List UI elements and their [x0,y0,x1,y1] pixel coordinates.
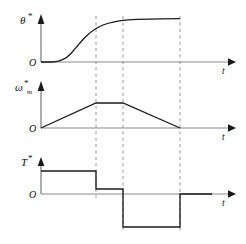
position-y-axis-superscript: * [28,11,33,21]
velocity-x-axis-arrow-icon [228,124,236,132]
torque-y-axis-label: T [21,156,28,168]
panel-velocity [38,81,236,132]
velocity-trace [41,103,180,128]
torque-trace [41,171,212,227]
torque-origin-label: O [29,189,36,200]
velocity-origin-label: O [29,123,36,134]
velocity-y-axis-superscript: * [24,78,29,88]
position-trace [41,19,180,62]
position-origin-label: O [29,57,36,68]
panel-torque [38,157,236,227]
position-x-axis-arrow-icon [228,58,236,66]
velocity-x-axis-label: t [222,132,225,142]
timing-markers-group [96,16,180,232]
velocity-y-axis-subscript: m [27,88,32,96]
torque-y-axis-arrow-icon [38,157,45,166]
torque-x-axis-label: t [222,198,225,208]
figure-canvas: θ * O t ω * m O t T * O t [0,0,246,244]
torque-x-axis-arrow-icon [228,190,236,198]
panel-position [38,14,236,66]
position-y-axis-label: θ [20,14,26,26]
velocity-y-axis-arrow-icon [38,81,45,91]
motion-profile-figure: θ * O t ω * m O t T * O t [0,0,246,244]
velocity-y-axis-label: ω [15,81,23,93]
position-y-axis-arrow-icon [38,14,45,24]
torque-y-axis-superscript: * [28,153,33,163]
position-x-axis-label: t [222,66,225,76]
